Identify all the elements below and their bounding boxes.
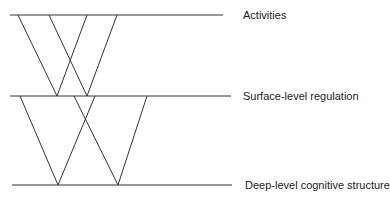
upper-v-1-left: [49, 15, 87, 96]
lower-v-1-left: [74, 96, 118, 185]
upper-v-1-right: [87, 15, 117, 96]
lower-v-0-left: [20, 96, 58, 185]
upper-v-0-right: [57, 15, 87, 96]
label-surface-level-regulation: Surface-level regulation: [243, 91, 359, 102]
label-activities: Activities: [243, 10, 286, 21]
lower-v-0-right: [58, 96, 95, 185]
upper-v-0-left: [18, 15, 57, 96]
lower-v-1-right: [118, 96, 147, 185]
label-deep-level-cognitive-structure: Deep-level cognitive structure: [245, 180, 390, 191]
